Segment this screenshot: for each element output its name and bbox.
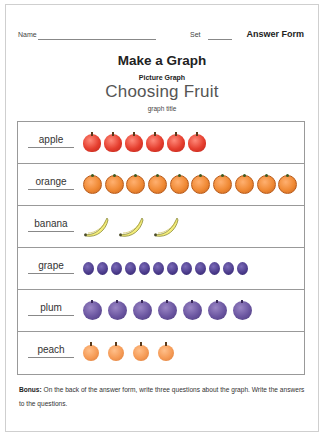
row-label: banana <box>28 218 74 232</box>
graph-row-grape: grape <box>18 248 304 290</box>
orange-icon <box>213 175 232 194</box>
plum-icon <box>108 301 127 320</box>
row-label: orange <box>28 176 74 190</box>
name-label: Name <box>18 31 37 38</box>
orange-icon <box>235 175 254 194</box>
row-icons <box>83 164 300 205</box>
orange-icon <box>105 175 124 194</box>
grape-icon <box>195 262 206 275</box>
page-subtitle: Picture Graph <box>6 74 318 81</box>
banana-icon <box>153 216 179 238</box>
row-label: plum <box>28 302 74 316</box>
grape-icon <box>209 262 220 275</box>
grape-icon <box>125 262 136 275</box>
apple-icon <box>188 134 206 152</box>
grape-icon <box>237 262 248 275</box>
orange-icon <box>170 175 189 194</box>
grape-icon <box>83 262 94 275</box>
grape-icon <box>223 262 234 275</box>
orange-icon <box>191 175 210 194</box>
orange-icon <box>257 175 276 194</box>
apple-icon <box>146 134 164 152</box>
grape-icon <box>97 262 108 275</box>
bonus-label: Bonus: <box>19 386 42 393</box>
plum-icon <box>133 301 152 320</box>
grape-icon <box>167 262 178 275</box>
row-label: apple <box>28 134 74 148</box>
apple-icon <box>167 134 185 152</box>
row-label: grape <box>28 260 74 274</box>
picture-graph: appleorangebananagrapeplumpeach <box>17 121 305 375</box>
grape-icon <box>139 262 150 275</box>
orange-icon <box>148 175 167 194</box>
apple-icon <box>83 134 101 152</box>
graph-row-banana: banana <box>18 206 304 248</box>
answer-form-label: Answer Form <box>246 29 304 39</box>
row-icons <box>83 248 251 289</box>
orange-icon <box>126 175 145 194</box>
graph-row-apple: apple <box>18 122 304 164</box>
row-label: peach <box>28 344 74 358</box>
orange-icon <box>278 175 297 194</box>
graph-title-caption: graph title <box>6 105 318 112</box>
plum-icon <box>183 301 202 320</box>
apple-icon <box>125 134 143 152</box>
bonus-instructions: Bonus: On the back of the answer form, w… <box>19 383 309 411</box>
plum-icon <box>83 301 102 320</box>
name-field-line <box>38 39 156 40</box>
peach-icon <box>133 345 149 361</box>
peach-icon <box>83 345 99 361</box>
peach-icon <box>108 345 124 361</box>
graph-row-orange: orange <box>18 164 304 206</box>
grape-icon <box>111 262 122 275</box>
banana-icon <box>118 216 144 238</box>
worksheet-page: Name Set Answer Form Make a Graph Pictur… <box>5 4 319 432</box>
set-label: Set <box>190 31 201 38</box>
plum-icon <box>158 301 177 320</box>
set-field-line <box>208 39 232 40</box>
grape-icon <box>181 262 192 275</box>
graph-row-peach: peach <box>18 332 304 373</box>
apple-icon <box>104 134 122 152</box>
plum-icon <box>233 301 252 320</box>
row-icons <box>83 206 188 247</box>
bonus-text: On the back of the answer form, write th… <box>19 386 304 407</box>
row-icons <box>83 332 183 373</box>
page-title: Make a Graph <box>6 53 318 68</box>
row-icons <box>83 122 209 163</box>
banana-icon <box>83 216 109 238</box>
worksheet-header: Name Set Answer Form <box>18 29 308 43</box>
grape-icon <box>153 262 164 275</box>
graph-title: Choosing Fruit <box>6 82 318 102</box>
graph-row-plum: plum <box>18 290 304 332</box>
orange-icon <box>83 175 102 194</box>
peach-icon <box>158 345 174 361</box>
plum-icon <box>208 301 227 320</box>
row-icons <box>83 290 258 331</box>
